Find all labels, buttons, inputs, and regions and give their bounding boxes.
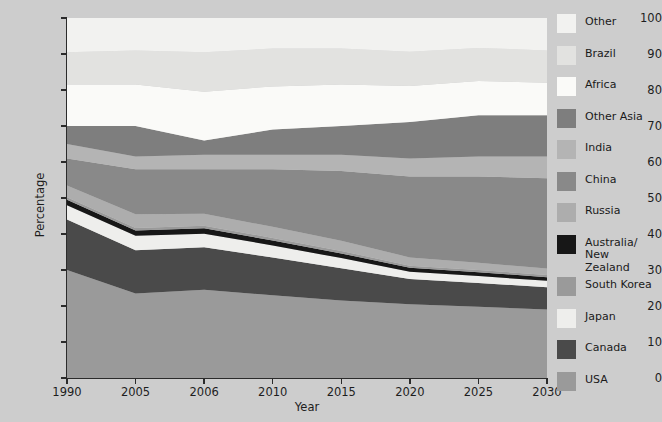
legend-item-label: USA — [585, 372, 608, 387]
legend-item-label: India — [585, 140, 612, 155]
legend-swatch-icon — [557, 172, 576, 191]
legend-swatch-icon — [557, 14, 576, 33]
legend-swatch-icon — [557, 77, 576, 96]
x-axis-tick — [66, 379, 67, 384]
x-axis-tick-label: 2010 — [238, 385, 308, 399]
x-axis-tick-label: 2025 — [443, 385, 513, 399]
legend-swatch-icon — [557, 277, 576, 296]
chart-page: 0102030405060708090100 19902005200620102… — [0, 0, 662, 422]
y-axis-tick — [61, 125, 66, 126]
x-axis-tick — [478, 379, 479, 384]
legend-swatch-icon — [557, 203, 576, 222]
y-axis-title: Percentage — [33, 145, 47, 265]
x-axis-tick — [135, 379, 136, 384]
y-axis-tick — [61, 341, 66, 342]
x-axis-tick-label: 2006 — [169, 385, 239, 399]
y-axis-line — [66, 17, 67, 379]
x-axis-tick — [203, 379, 204, 384]
x-axis-tick-label: 2020 — [375, 385, 445, 399]
legend-item[interactable]: India — [557, 140, 657, 159]
y-axis-tick — [61, 197, 66, 198]
legend-item-label: Japan — [585, 309, 616, 324]
x-axis-line — [66, 378, 548, 379]
x-axis-tick — [546, 379, 547, 384]
legend-item[interactable]: USA — [557, 372, 657, 391]
legend-item[interactable]: Brazil — [557, 46, 657, 65]
x-axis-tick — [409, 379, 410, 384]
legend-item[interactable]: South Korea — [557, 277, 657, 296]
y-axis-tick — [61, 233, 66, 234]
legend-item[interactable]: Other Asia — [557, 109, 657, 128]
legend-item[interactable]: Japan — [557, 309, 657, 328]
legend-item-label: Russia — [585, 203, 620, 218]
legend-item-label: Other — [585, 14, 616, 29]
legend-item-label: China — [585, 172, 616, 187]
y-axis-tick — [61, 161, 66, 162]
y-axis-tick — [61, 305, 66, 306]
legend-swatch-icon — [557, 109, 576, 128]
legend-item-label: Other Asia — [585, 109, 643, 124]
y-axis-tick — [61, 17, 66, 18]
y-axis-tick — [61, 89, 66, 90]
legend-item-label: Brazil — [585, 46, 616, 61]
legend-swatch-icon — [557, 235, 576, 254]
legend-item[interactable]: Other — [557, 14, 657, 33]
x-axis-tick-label: 2005 — [101, 385, 171, 399]
legend-item-label: Africa — [585, 77, 616, 92]
legend-swatch-icon — [557, 140, 576, 159]
y-axis-tick — [61, 377, 66, 378]
legend-item[interactable]: China — [557, 172, 657, 191]
legend-item-label: South Korea — [585, 277, 652, 292]
x-axis-tick — [272, 379, 273, 384]
stacked-area-svg — [67, 18, 547, 378]
x-axis-tick-label: 1990 — [32, 385, 102, 399]
legend-swatch-icon — [557, 309, 576, 328]
legend-item-label: Australia/ New Zealand — [585, 235, 657, 275]
area-series — [67, 18, 547, 52]
legend-swatch-icon — [557, 46, 576, 65]
y-axis-tick — [61, 269, 66, 270]
x-axis-tick-label: 2015 — [306, 385, 376, 399]
x-axis-tick — [341, 379, 342, 384]
legend-item[interactable]: Australia/ New Zealand — [557, 235, 657, 275]
legend-swatch-icon — [557, 372, 576, 391]
legend-swatch-icon — [557, 340, 576, 359]
legend-item-label: Canada — [585, 340, 627, 355]
legend-item[interactable]: Canada — [557, 340, 657, 359]
legend-item[interactable]: Africa — [557, 77, 657, 96]
y-axis-tick — [61, 53, 66, 54]
legend-item[interactable]: Russia — [557, 203, 657, 222]
plot-area — [67, 18, 547, 378]
x-axis-title: Year — [67, 400, 547, 414]
